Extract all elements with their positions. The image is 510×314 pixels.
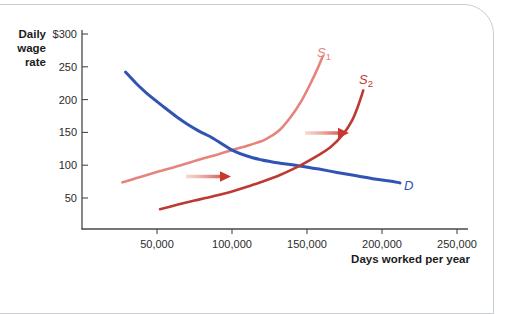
shift-arrow-lower-head — [220, 171, 231, 181]
curve-S1 — [123, 56, 323, 182]
curve-S2 — [160, 90, 363, 209]
curve-label-S2: S2 — [359, 72, 373, 89]
x-tick-label: 50,000 — [140, 238, 174, 250]
y-tick-label: 50 — [65, 192, 77, 204]
y-axis-title: wage — [16, 42, 46, 54]
curve-label-S1: S1 — [317, 45, 331, 62]
x-tick-label: 100,000 — [212, 238, 252, 250]
y-tick-label: 250 — [59, 61, 77, 73]
x-tick-label: 250,000 — [437, 238, 477, 250]
curve-D — [126, 72, 401, 183]
y-tick-label: 200 — [59, 94, 77, 106]
y-tick-label: $300 — [53, 28, 77, 40]
y-axis-title: rate — [25, 56, 46, 68]
y-tick-label: 100 — [59, 159, 77, 171]
curve-label-D: D — [404, 178, 413, 193]
y-tick-label: 150 — [59, 126, 77, 138]
x-tick-label: 200,000 — [362, 238, 402, 250]
y-axis-title: Daily — [19, 28, 47, 40]
x-axis-title: Days worked per year — [351, 253, 470, 265]
x-tick-label: 150,000 — [287, 238, 327, 250]
